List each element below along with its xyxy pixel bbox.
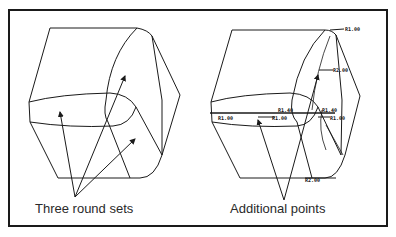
left-block-diagram: [29, 28, 180, 197]
dimension-labels: R1.00 R2.00 R1.00 R1.00 R1.40 R1.40 R1.0…: [218, 26, 360, 183]
point-label: R2.00: [333, 67, 348, 73]
caption-three-round-sets: Three round sets: [35, 201, 133, 216]
round-sets-figure: R1.00 R2.00 R1.00 R1.00 R1.40 R1.40 R1.0…: [0, 0, 396, 237]
point-label: R1.40: [278, 107, 293, 113]
point-label: R1.00: [345, 26, 360, 32]
point-label: R1.00: [272, 115, 287, 121]
point-label: R1.00: [330, 115, 345, 121]
point-label: R1.00: [218, 115, 233, 121]
point-label: R1.40: [322, 107, 337, 113]
caption-additional-points: Additional points: [230, 201, 325, 216]
point-label: R2.00: [305, 177, 320, 183]
